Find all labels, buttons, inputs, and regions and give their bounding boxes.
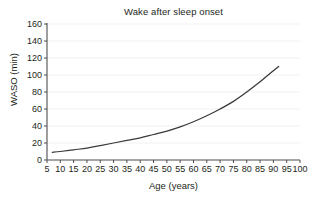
y-tick-label: 0 [18, 156, 42, 165]
y-tick-label: 40 [18, 122, 42, 131]
y-tick-label: 60 [18, 105, 42, 114]
y-tick-label: 100 [18, 71, 42, 80]
y-tick-label: 160 [18, 20, 42, 29]
tick-marks [44, 24, 300, 163]
y-tick-label: 140 [18, 37, 42, 46]
data-series-waso [52, 67, 278, 153]
y-tick-label: 80 [18, 88, 42, 97]
y-tick-label: 120 [18, 54, 42, 63]
x-tick-label: 100 [289, 165, 311, 174]
gridlines [47, 24, 300, 143]
y-tick-label: 20 [18, 139, 42, 148]
chart-figure: Wake after sleep onset WASO (min) Age (y… [0, 0, 315, 200]
